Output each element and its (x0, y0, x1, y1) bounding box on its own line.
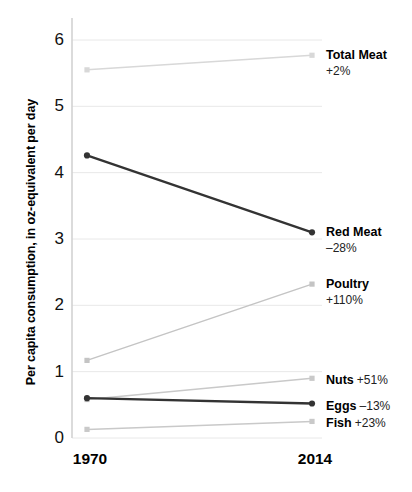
data-point-marker (84, 152, 90, 158)
data-point-marker (84, 67, 89, 72)
data-point-marker (309, 53, 314, 58)
y-tick-label: 6 (40, 31, 64, 48)
series-name: Total Meat (326, 48, 387, 62)
series-lines (87, 55, 312, 429)
data-point-marker (84, 358, 89, 363)
series-label-total-meat: Total Meat+2% (326, 45, 387, 78)
data-point-marker (84, 427, 89, 432)
series-name: Eggs (326, 399, 357, 413)
x-tick-label: 1970 (73, 450, 107, 468)
series-label-nuts: Nuts+51% (326, 370, 388, 389)
data-point-marker (84, 395, 90, 401)
series-name: Poultry (326, 277, 369, 291)
series-change-pct: +51% (357, 373, 388, 387)
series-line (87, 378, 312, 399)
series-change-pct: –13% (360, 399, 391, 413)
series-line (87, 398, 312, 403)
y-tick-label: 2 (40, 296, 64, 313)
series-change-pct: +110% (326, 293, 369, 307)
y-tick-label: 1 (40, 363, 64, 380)
series-name: Red Meat (326, 225, 382, 239)
series-change-pct: –28% (326, 241, 382, 255)
series-label-fish: Fish+23% (326, 413, 386, 432)
data-point-marker (309, 419, 314, 424)
series-markers (84, 53, 315, 432)
series-line (87, 155, 312, 232)
series-name: Nuts (326, 373, 354, 387)
gridlines (72, 40, 322, 438)
y-tick-label: 3 (40, 230, 64, 247)
series-line (87, 421, 312, 429)
x-tick-label: 2014 (298, 450, 332, 468)
data-point-marker (309, 376, 314, 381)
data-point-marker (309, 229, 315, 235)
series-name: Fish (326, 416, 352, 430)
series-change-pct: +23% (355, 416, 386, 430)
data-point-marker (309, 282, 314, 287)
y-tick-label: 4 (40, 164, 64, 181)
series-change-pct: +2% (326, 64, 387, 78)
data-point-marker (309, 400, 315, 406)
series-label-red-meat: Red Meat–28% (326, 222, 382, 255)
series-label-eggs: Eggs–13% (326, 396, 390, 415)
y-tick-label: 5 (40, 97, 64, 114)
series-label-poultry: Poultry+110% (326, 274, 369, 307)
line-chart: Per capita consumption, in oz-equivalent… (0, 0, 412, 492)
series-line (87, 55, 312, 70)
y-tick-label: 0 (40, 429, 64, 446)
series-line (87, 284, 312, 360)
